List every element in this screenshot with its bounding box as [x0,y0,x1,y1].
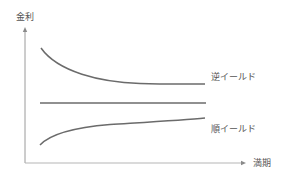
normal-yield-label: 順イールド [211,125,256,134]
y-axis-label: 金利 [16,13,34,22]
x-axis-label: 満期 [253,159,271,168]
normal-yield-curve [40,118,205,145]
yield-curve-diagram [0,0,288,181]
inverted-yield-curve [41,48,205,84]
inverted-yield-label: 逆イールド [211,73,256,82]
